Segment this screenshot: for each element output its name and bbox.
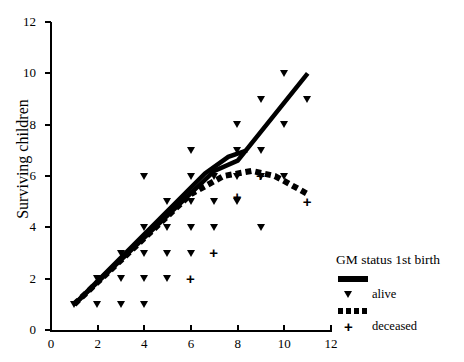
legend-label-alive: alive [372,287,396,302]
solid-line-icon [336,276,372,282]
data-point-alive [117,250,125,257]
data-point-alive [140,224,148,231]
legend-item-alive: alive [336,287,462,302]
data-point-alive [280,173,288,180]
data-point-deceased: + [256,171,265,181]
data-point-alive [163,198,171,205]
data-point-deceased: + [186,274,195,284]
data-point-alive [233,147,241,154]
plus-marker-icon: + [336,321,372,333]
data-point-alive [70,301,78,308]
data-point-alive [140,173,148,180]
chart-legend: GM status 1st birth alive + deceased [336,252,462,334]
data-point-alive [140,275,148,282]
data-point-alive [163,250,171,257]
data-point-alive [187,173,195,180]
data-point-alive [210,173,218,180]
data-point-alive [187,250,195,257]
data-point-alive [187,147,195,154]
data-point-alive [117,301,125,308]
data-point-alive [303,96,311,103]
legend-item-alive-line [336,271,462,286]
data-point-alive [210,224,218,231]
dashed-line-icon [336,308,372,314]
legend-item-deceased-line [336,303,462,318]
data-point-alive [140,250,148,257]
data-point-alive [233,121,241,128]
data-point-deceased: + [233,192,242,202]
triangle-marker-icon [336,291,372,298]
data-point-alive [140,301,148,308]
data-point-alive [257,224,265,231]
data-point-alive [257,96,265,103]
data-point-deceased: + [209,248,218,258]
legend-item-deceased: + deceased [336,319,462,334]
data-point-alive [210,198,218,205]
data-point-alive [280,121,288,128]
data-point-alive [187,224,195,231]
data-point-deceased: + [303,197,312,207]
chart-figure: 024681012024681012 Surviving children ++… [0,0,464,362]
data-point-alive [93,301,101,308]
data-point-alive [163,275,171,282]
legend-label-deceased: deceased [372,319,417,334]
data-point-alive [187,198,195,205]
data-point-alive [93,275,101,282]
data-point-alive [233,173,241,180]
data-point-alive [280,70,288,77]
data-point-alive [163,224,171,231]
data-point-alive [257,147,265,154]
data-point-alive [117,275,125,282]
legend-title: GM status 1st birth [336,252,462,268]
